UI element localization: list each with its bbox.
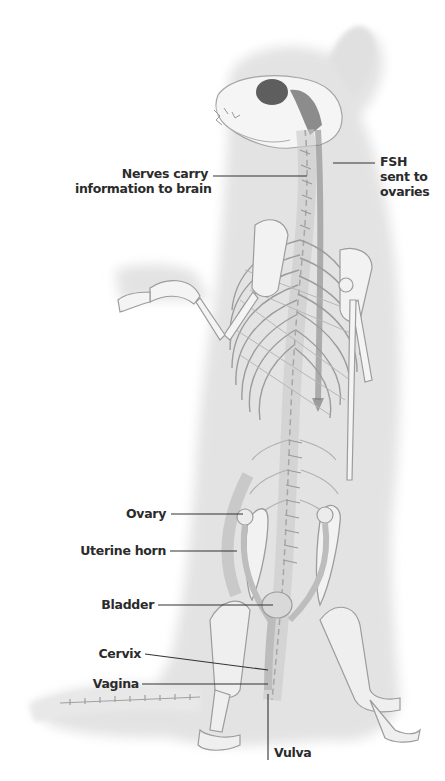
label-vulva: Vulva [274, 745, 312, 760]
label-fsh: FSH sent to ovaries [380, 154, 429, 199]
label-vagina: Vagina [80, 676, 139, 691]
label-fsh-line3: ovaries [380, 184, 429, 199]
label-bladder: Bladder [80, 597, 154, 612]
label-nerves-line2: information to brain [75, 181, 208, 196]
cat-reproductive-diagram: Nerves carry information to brain FSH se… [0, 0, 445, 781]
label-cervix: Cervix [80, 646, 141, 661]
label-fsh-line2: sent to [380, 169, 429, 184]
label-nerves-line1: Nerves carry [75, 166, 208, 181]
label-fsh-line1: FSH [380, 154, 429, 169]
cat-skeleton-illustration [0, 0, 445, 781]
label-ovary: Ovary [100, 506, 166, 521]
label-uterine-horn: Uterine horn [60, 543, 166, 558]
label-nerves: Nerves carry information to brain [75, 166, 208, 196]
ovary-right [317, 507, 333, 523]
eye-socket [256, 79, 288, 105]
vagina-tract [268, 618, 272, 690]
ovary-left [237, 509, 253, 525]
